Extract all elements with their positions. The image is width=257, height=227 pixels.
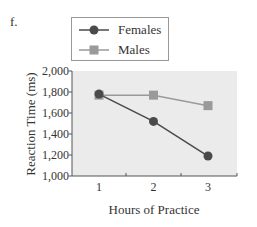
y-tick-label: 1,600 <box>42 106 69 120</box>
y-tick-label: 1,400 <box>42 127 69 141</box>
data-point <box>95 90 104 99</box>
line-chart: 1,0001,2001,4001,6001,8002,000123 Reacti… <box>0 0 257 227</box>
data-point <box>204 101 213 110</box>
data-point <box>149 117 158 126</box>
y-tick-label: 1,800 <box>42 85 69 99</box>
x-tick-label: 2 <box>151 180 157 194</box>
y-axis-label: Reaction Time (ms) <box>23 72 38 175</box>
x-axis-label: Hours of Practice <box>109 202 200 217</box>
y-tick-label: 1,200 <box>42 148 69 162</box>
y-tick-label: 1,000 <box>42 169 69 183</box>
x-tick-label: 1 <box>96 180 102 194</box>
x-tick-label: 3 <box>205 180 211 194</box>
data-point <box>149 91 158 100</box>
data-point <box>204 152 213 161</box>
y-tick-label: 2,000 <box>42 64 69 78</box>
